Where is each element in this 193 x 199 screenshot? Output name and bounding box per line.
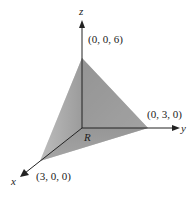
region-label: R xyxy=(83,131,91,143)
z-arrow-icon xyxy=(79,20,85,28)
tetrahedron-diagram: z y x (0, 0, 6) (0, 3, 0) (3, 0, 0) R xyxy=(0,0,193,199)
vertex-x-label: (3, 0, 0) xyxy=(36,170,71,183)
y-arrow-icon xyxy=(172,125,180,131)
z-axis-label: z xyxy=(78,5,84,17)
face-slanted xyxy=(40,58,148,161)
vertex-z-label: (0, 0, 6) xyxy=(88,33,123,46)
y-axis-label: y xyxy=(180,122,186,134)
x-axis-label: x xyxy=(10,175,16,187)
x-arrow-icon xyxy=(20,169,29,177)
vertex-y-label: (0, 3, 0) xyxy=(147,108,182,121)
